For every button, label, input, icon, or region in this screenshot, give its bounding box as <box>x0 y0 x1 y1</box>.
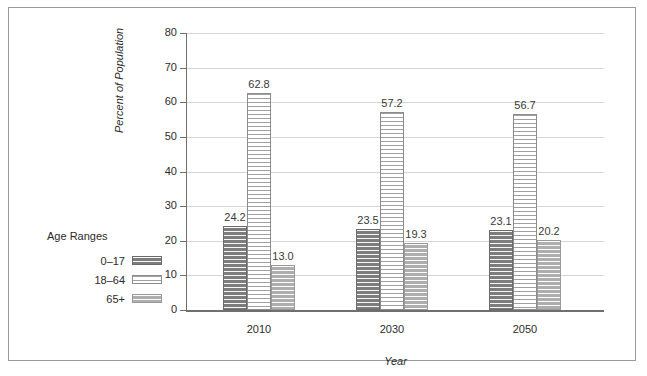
chart-frame: Age Ranges 0–17 18–64 65+ Percent of Pop… <box>8 7 636 361</box>
legend-item-65-plus: 65+ <box>37 289 162 308</box>
gridline <box>187 33 604 34</box>
y-axis-tick <box>180 206 186 207</box>
y-axis-tick-label: 0 <box>171 303 177 315</box>
legend-item-18-64: 18–64 <box>37 270 162 289</box>
y-axis-tick <box>180 310 186 311</box>
y-axis-tick-label: 10 <box>165 268 177 280</box>
legend-label-65-plus: 65+ <box>106 293 125 305</box>
bar-group: 23.557.219.3 <box>356 112 428 310</box>
bar-value-label: 19.3 <box>405 228 426 240</box>
y-axis-tick <box>180 241 186 242</box>
legend-item-0-17: 0–17 <box>37 251 162 270</box>
bar-value-label: 23.1 <box>490 215 511 227</box>
bar[interactable]: 13.0 <box>271 265 295 310</box>
x-axis-tick-label: 2030 <box>347 323 437 335</box>
bar[interactable]: 56.7 <box>513 114 537 310</box>
bar-group: 24.262.813.0 <box>223 93 295 310</box>
chart-legend: Age Ranges 0–17 18–64 65+ <box>37 230 162 308</box>
bar[interactable]: 23.1 <box>489 230 513 310</box>
bar[interactable]: 62.8 <box>247 93 271 310</box>
y-axis-tick <box>180 68 186 69</box>
legend-label-0-17: 0–17 <box>101 255 125 267</box>
bar-value-label: 23.5 <box>357 214 378 226</box>
x-axis-tick-label: 2010 <box>214 323 304 335</box>
y-axis-tick-label: 60 <box>165 95 177 107</box>
bar-value-label: 62.8 <box>248 78 269 90</box>
y-axis-tick-label: 40 <box>165 165 177 177</box>
gridline <box>187 68 604 69</box>
y-axis-tick-labels: 01020304050607080 <box>145 33 177 310</box>
bar-value-label: 56.7 <box>514 99 535 111</box>
bar[interactable]: 57.2 <box>380 112 404 310</box>
x-axis-title: Year <box>187 355 604 367</box>
y-axis-tick <box>180 102 186 103</box>
y-axis-tick <box>180 137 186 138</box>
bar-value-label: 57.2 <box>381 97 402 109</box>
bar-value-label: 13.0 <box>272 250 293 262</box>
legend-title: Age Ranges <box>37 230 162 242</box>
y-axis-title: Percent of Population <box>113 28 125 133</box>
y-axis-tick <box>180 33 186 34</box>
bar-value-label: 24.2 <box>224 211 245 223</box>
y-axis-tick-label: 20 <box>165 234 177 246</box>
y-axis-tick-label: 70 <box>165 61 177 73</box>
bar-group: 23.156.720.2 <box>489 114 561 310</box>
plot-area: 24.262.813.023.557.219.323.156.720.2 <box>187 33 604 310</box>
y-axis-tick-label: 50 <box>165 130 177 142</box>
y-axis-tick <box>180 172 186 173</box>
bar[interactable]: 23.5 <box>356 229 380 310</box>
y-axis-line <box>186 33 187 311</box>
bar[interactable]: 19.3 <box>404 243 428 310</box>
x-axis-tick-label: 2050 <box>480 323 570 335</box>
bar-value-label: 20.2 <box>538 225 559 237</box>
y-axis-tick <box>180 275 186 276</box>
y-axis-tick-label: 80 <box>165 26 177 38</box>
legend-label-18-64: 18–64 <box>94 274 125 286</box>
bar[interactable]: 24.2 <box>223 226 247 310</box>
bar[interactable]: 20.2 <box>537 240 561 310</box>
y-axis-tick-label: 30 <box>165 199 177 211</box>
x-axis-line <box>186 310 604 312</box>
